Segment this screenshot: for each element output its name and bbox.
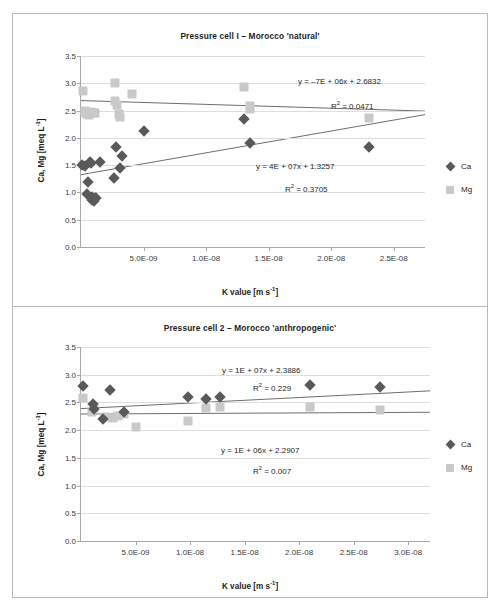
trendline-layer bbox=[81, 347, 430, 541]
data-point-mg bbox=[215, 402, 224, 411]
data-point-ca bbox=[182, 391, 193, 402]
x-axis-tick-label: 1.0E-08 bbox=[176, 548, 204, 557]
y-axis-tick-mark bbox=[77, 458, 81, 459]
y-axis-tick-mark bbox=[77, 541, 81, 542]
y-axis-tick-label: 1.5 bbox=[65, 161, 76, 170]
chart-panel-pressure-cell-1: Pressure cell I – Morocco 'natural' 0.00… bbox=[13, 14, 487, 306]
legend-label: Mg bbox=[461, 463, 472, 472]
x-axis-tick-label: 2.0E-08 bbox=[317, 254, 345, 263]
y-axis-tick-mark bbox=[77, 486, 81, 487]
ca-trendline-equation: y = 4E + 07x + 1.3257 bbox=[256, 162, 335, 171]
y-axis-tick-mark bbox=[77, 220, 81, 221]
legend-label: Ca bbox=[461, 162, 471, 171]
mg-trendline-equation: y = 1E + 06x + 2.2907 bbox=[221, 446, 300, 455]
gridline bbox=[81, 347, 430, 348]
data-point-ca bbox=[214, 391, 225, 402]
data-point-ca bbox=[82, 176, 93, 187]
x-axis-tick-label: 2.5E-08 bbox=[340, 548, 368, 557]
legend: Ca Mg bbox=[443, 440, 472, 486]
x-axis-tick-label: 5.0E-09 bbox=[130, 254, 158, 263]
x-axis-tick-label: 1.5E-08 bbox=[255, 254, 283, 263]
y-axis-tick-label: 0.0 bbox=[65, 243, 76, 252]
chart-title: Pressure cell 2 – Morocco 'anthropogenic… bbox=[13, 323, 487, 333]
ca-trendline-equation: y = 1E + 07x + 2.3886 bbox=[222, 366, 301, 375]
data-point-mg bbox=[202, 403, 211, 412]
data-point-mg bbox=[239, 82, 248, 91]
data-point-mg bbox=[306, 402, 315, 411]
y-axis-tick-mark bbox=[77, 83, 81, 84]
data-point-ca bbox=[94, 157, 105, 168]
y-axis-tick-mark bbox=[77, 513, 81, 514]
legend-item-mg: Mg bbox=[443, 185, 472, 194]
diamond-marker-icon bbox=[443, 163, 457, 170]
mg-trendline-r2: R2 = 0.007 bbox=[253, 467, 291, 476]
x-axis-tick-mark bbox=[190, 541, 191, 545]
data-point-ca bbox=[138, 125, 149, 136]
y-axis-tick-mark bbox=[77, 138, 81, 139]
chart-panel-pressure-cell-2: Pressure cell 2 – Morocco 'anthropogenic… bbox=[13, 306, 487, 597]
x-axis-tick-mark bbox=[394, 247, 395, 251]
y-axis-tick-mark bbox=[77, 430, 81, 431]
gridline bbox=[81, 56, 425, 57]
y-axis-tick-mark bbox=[77, 56, 81, 57]
data-point-mg bbox=[183, 416, 192, 425]
x-axis-tick-label: 2.0E-08 bbox=[285, 548, 313, 557]
x-axis-title: K value [m s-1] bbox=[13, 582, 487, 591]
x-axis-tick-mark bbox=[408, 541, 409, 545]
y-axis-tick-label: 3.5 bbox=[65, 52, 76, 61]
data-point-ca bbox=[77, 381, 88, 392]
gridline bbox=[81, 402, 430, 403]
legend: Ca Mg bbox=[443, 162, 472, 208]
data-point-ca bbox=[363, 141, 374, 152]
y-axis-tick-label: 2.0 bbox=[65, 133, 76, 142]
data-point-mg bbox=[128, 90, 137, 99]
y-axis-tick-label: 1.5 bbox=[65, 453, 76, 462]
gridline bbox=[81, 513, 430, 514]
y-axis-tick-label: 3.5 bbox=[65, 343, 76, 352]
data-point-ca bbox=[304, 379, 315, 390]
data-point-ca bbox=[374, 381, 385, 392]
y-axis-tick-label: 0.5 bbox=[65, 215, 76, 224]
x-axis-tick-mark bbox=[206, 247, 207, 251]
data-point-mg bbox=[115, 113, 124, 122]
chart-title: Pressure cell I – Morocco 'natural' bbox=[13, 31, 487, 41]
y-axis-tick-label: 0.0 bbox=[65, 537, 76, 546]
legend-label: Mg bbox=[461, 185, 472, 194]
legend-item-mg: Mg bbox=[443, 463, 472, 472]
ca-trendline-r2: R2 = 0.229 bbox=[253, 384, 291, 393]
x-axis-tick-label: 1.5E-08 bbox=[231, 548, 259, 557]
y-axis-title: Ca, Mg [meq L-1] bbox=[37, 395, 46, 495]
x-axis-tick-mark bbox=[331, 247, 332, 251]
gridline bbox=[81, 192, 425, 193]
legend-label: Ca bbox=[461, 440, 471, 449]
gridline bbox=[81, 165, 425, 166]
data-point-mg bbox=[78, 393, 87, 402]
y-axis-tick-label: 2.0 bbox=[65, 426, 76, 435]
data-point-mg bbox=[131, 423, 140, 432]
mg-trendline-r2: R2 = 0.0471 bbox=[331, 102, 374, 111]
legend-item-ca: Ca bbox=[443, 162, 472, 171]
gridline bbox=[81, 458, 430, 459]
x-axis-tick-mark bbox=[245, 541, 246, 545]
y-axis-tick-label: 1.0 bbox=[65, 188, 76, 197]
x-axis-tick-mark bbox=[136, 541, 137, 545]
data-point-ca bbox=[105, 385, 116, 396]
y-axis-tick-mark bbox=[77, 347, 81, 348]
x-axis-tick-label: 5.0E-09 bbox=[122, 548, 150, 557]
data-point-mg bbox=[245, 105, 254, 114]
data-point-ca bbox=[244, 138, 255, 149]
legend-item-ca: Ca bbox=[443, 440, 472, 449]
y-axis-tick-mark bbox=[77, 402, 81, 403]
data-point-mg bbox=[78, 87, 87, 96]
y-axis-tick-label: 3.0 bbox=[65, 79, 76, 88]
data-point-ca bbox=[108, 173, 119, 184]
data-point-ca bbox=[114, 162, 125, 173]
data-point-mg bbox=[90, 108, 99, 117]
x-axis-tick-mark bbox=[144, 247, 145, 251]
gridline bbox=[81, 220, 425, 221]
gridline bbox=[81, 138, 425, 139]
y-axis-tick-mark bbox=[77, 247, 81, 248]
x-axis-tick-label: 2.5E-08 bbox=[380, 254, 408, 263]
x-axis-tick-label: 1.0E-08 bbox=[192, 254, 220, 263]
diamond-marker-icon bbox=[443, 441, 457, 448]
